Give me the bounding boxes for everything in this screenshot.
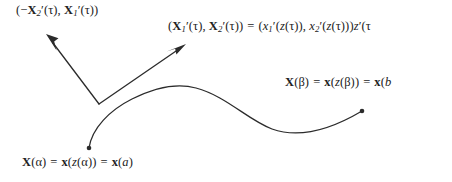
math-figure: (−X2′(τ), X1′(τ)) (X1′(τ), X2′(τ))=(x1′(… [0,0,452,182]
tangent-prime-two: ′( [222,19,229,33]
alpha-equals-one: = [46,155,61,169]
beta-equals-two: = [359,75,374,89]
beta-b: b [385,75,391,89]
beta-inner: (β)) [340,75,359,89]
alpha-arg: (α) [31,155,46,169]
alpha-X: X [22,155,31,169]
tangent-ztau-one: (τ)), [285,19,309,33]
curve-end-dot [360,109,365,114]
tangent-z-final-tail: ′(τ [359,19,371,33]
tangent-vector-label: (X1′(τ), X2′(τ))=(x1′(z(τ)), x2′(z(τ)))z… [168,20,371,34]
beta-equals-one: = [309,75,324,89]
beta-X: X [285,75,294,89]
normal-close-first: ), [53,3,64,17]
beta-arg: (β) [294,75,309,89]
tangent-equals: = [243,19,258,33]
alpha-equals-two: = [97,155,112,169]
normal-arrow-shaft [53,43,99,104]
normal-open-paren: (− [16,3,27,17]
normal-X-second: X [64,3,73,17]
normal-close-paren: )) [90,3,99,17]
tangent-prime-x-two: ′( [319,19,326,33]
tangent-close-lhs: )) [235,19,244,33]
normal-vector-label: (−X2′(τ), X1′(τ)) [16,4,98,18]
tangent-X-two: X [209,19,218,33]
startpoint-alpha-label: X(α)=x(z(α))=x(a) [22,156,133,169]
alpha-close-paren: ) [129,155,133,169]
tangent-prime-one: ′( [186,19,193,33]
parametric-curve [89,86,362,148]
alpha-inner: (α)) [77,155,96,169]
tangent-separator: ), [198,19,209,33]
endpoint-beta-label: X(β)=x(z(β))=x(b [285,76,391,89]
normal-prime-second: ′( [78,3,85,17]
tangent-prime-x-one: ′( [273,19,280,33]
normal-X-first: X [27,3,36,17]
curve-start-dot [87,146,92,151]
tangent-arrow-head [167,44,186,55]
tangent-ztau-two: (τ))) [331,19,353,33]
